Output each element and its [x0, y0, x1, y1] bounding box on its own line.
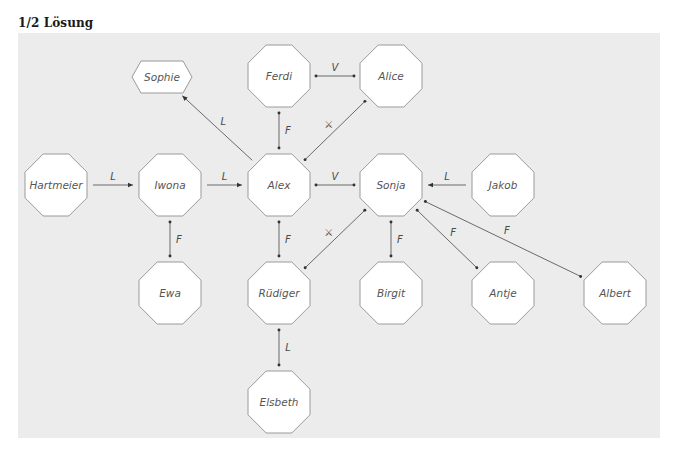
node-label: Alice — [377, 70, 403, 82]
node-label: Antje — [488, 287, 516, 299]
edge-sonja-antje — [417, 210, 477, 267]
node-label: Albert — [598, 287, 632, 299]
edge-label: F — [504, 225, 510, 236]
edge-label: ⚔ — [325, 227, 332, 238]
edge-label: F — [285, 234, 291, 245]
node-sonja: Sonja — [360, 154, 422, 216]
node-label: Ferdi — [266, 70, 292, 82]
edge-label: F — [176, 234, 182, 245]
node-label: Birgit — [377, 287, 406, 299]
node-antje: Antje — [472, 262, 534, 324]
edge-label: F — [285, 125, 291, 136]
edge-label: V — [332, 171, 340, 182]
node-label: Ewa — [159, 287, 181, 299]
node-birgit: Birgit — [360, 262, 422, 324]
edge-label: F — [450, 227, 456, 238]
edge-label: L — [110, 171, 116, 182]
node-jakob: Jakob — [472, 154, 534, 216]
node-ruediger: Rüdiger — [248, 262, 310, 324]
edge-label: V — [332, 62, 340, 73]
edge-label: L — [222, 171, 228, 182]
node-iwona: Iwona — [139, 154, 201, 216]
node-label: Alex — [267, 179, 292, 191]
edge-label: ⚔ — [325, 119, 332, 130]
node-ewa: Ewa — [139, 262, 201, 324]
edge-label: F — [397, 234, 403, 245]
edge-label: L — [285, 342, 291, 353]
node-label: Rüdiger — [259, 287, 301, 299]
node-albert: Albert — [584, 262, 646, 324]
node-label: Elsbeth — [260, 396, 299, 408]
edge-label: L — [444, 171, 450, 182]
node-alex: Alex — [248, 154, 310, 216]
node-label: Hartmeier — [29, 179, 83, 191]
node-hartmeier: Hartmeier — [25, 154, 87, 216]
node-sophie: Sophie — [132, 61, 192, 93]
edge-ruediger-sonja — [305, 210, 365, 267]
edge-label: L — [221, 116, 227, 127]
node-label: Iwona — [154, 179, 185, 191]
node-alice: Alice — [360, 45, 422, 107]
relationship-diagram: LLLVF⚔VLFF⚔FFFL SophieFerdiAliceHartmeie… — [0, 0, 675, 454]
node-ferdi: Ferdi — [248, 45, 310, 107]
node-label: Sophie — [144, 71, 180, 83]
node-label: Jakob — [487, 179, 518, 191]
edge-alex-alice — [305, 101, 365, 159]
node-elsbeth: Elsbeth — [248, 371, 310, 433]
node-label: Sonja — [376, 179, 405, 191]
edge-alex-sophie — [182, 96, 252, 161]
